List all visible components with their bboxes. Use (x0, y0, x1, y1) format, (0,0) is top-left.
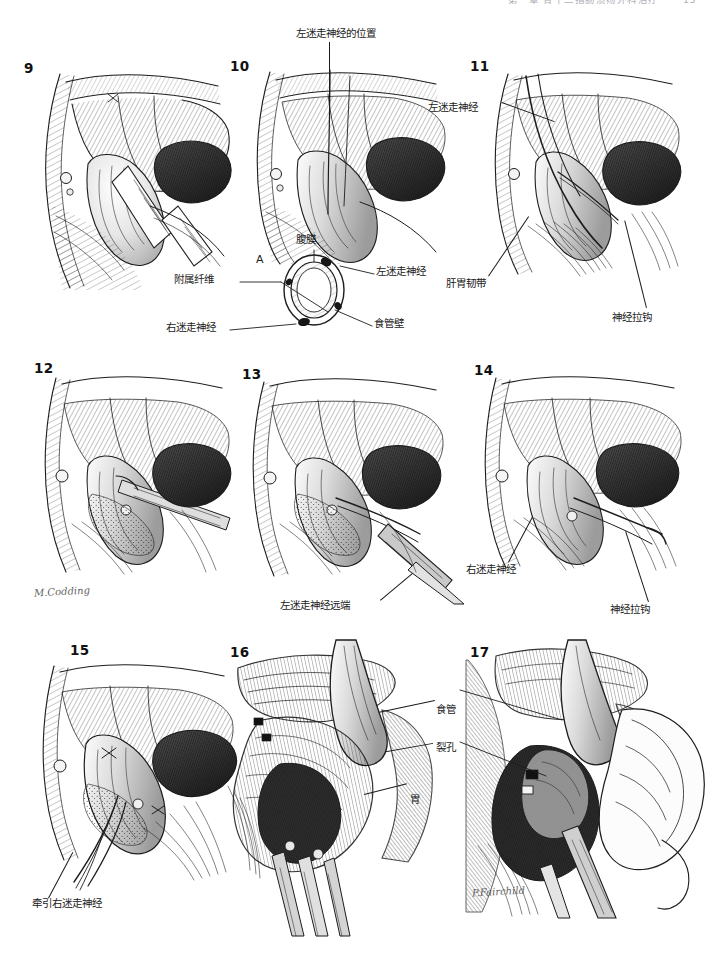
panel-16-illustration (232, 646, 432, 936)
panel-15-label-retract-right-vagus-nerve: 牵引右迷走神经 (32, 898, 102, 910)
panel-10-illustration (236, 56, 458, 266)
panel-11-label-nerve-hook: 神经拉钩 (612, 312, 652, 324)
panel-16-label-esophagus: 食管 (436, 704, 456, 716)
panel-17-illustration (466, 650, 706, 918)
figure-page: 第一章 胃十二指肠溃疡外科治疗 15 9 (0, 0, 714, 972)
running-head-page-number: 15 (683, 0, 696, 5)
panel-15-illustration (26, 650, 240, 898)
panel-12: 12 (0, 352, 238, 642)
panel-11-label-hepatogastric-ligament: 肝胃韧带 (446, 278, 486, 290)
panel-14-illustration (470, 364, 702, 574)
inset-a-label-left-vagus-nerve: 左迷走神经 (376, 266, 426, 278)
panel-15: 15 牵引右迷走神经 (0, 636, 238, 966)
panel-11: 11 左迷走神经 肝胃韧带 神经拉钩 (460, 40, 714, 350)
inset-a-label-accessory-fibers: 附属纤维 (174, 274, 214, 286)
inset-a-label-right-vagus-nerve: 右迷走神经 (166, 322, 216, 334)
running-head-chapter-title: 第一章 胃十二指肠溃疡外科治疗 (508, 0, 659, 6)
panel-17: 17 (460, 636, 714, 966)
panel-16: 16 食管 裂孔 胃 (228, 636, 464, 966)
inset-a-letter: A (256, 254, 264, 266)
inset-a-label-esophageal-wall: 食管壁 (374, 318, 404, 330)
panel-12-illustration (30, 364, 240, 576)
panel-14-label-nerve-hook: 神经拉钩 (610, 604, 650, 616)
panel-16-label-hiatus: 裂孔 (436, 742, 456, 754)
panel-13: 13 左迷走神经远端 (228, 352, 464, 642)
inset-a-label-peritoneum: 腹膜 (296, 234, 316, 246)
running-head: 第一章 胃十二指肠溃疡外科治疗 15 (508, 0, 696, 5)
panel-13-illustration (240, 366, 464, 604)
panel-10-inset-a: 腹膜 左迷走神经 附属纤维 右迷走神经 食管壁 A (168, 238, 458, 343)
panel-11-illustration (472, 56, 694, 278)
artist-signature-codding: M.Codding (34, 585, 90, 599)
panel-11-label-left-vagus-nerve: 左迷走神经 (428, 102, 478, 114)
panel-10-label-position-of-left-vagus-nerve: 左迷走神经的位置 (296, 28, 376, 40)
panel-10: 10 左迷走神经的位置 (228, 40, 464, 350)
panel-14: 14 右迷走神经 神经拉钩 (460, 352, 714, 642)
